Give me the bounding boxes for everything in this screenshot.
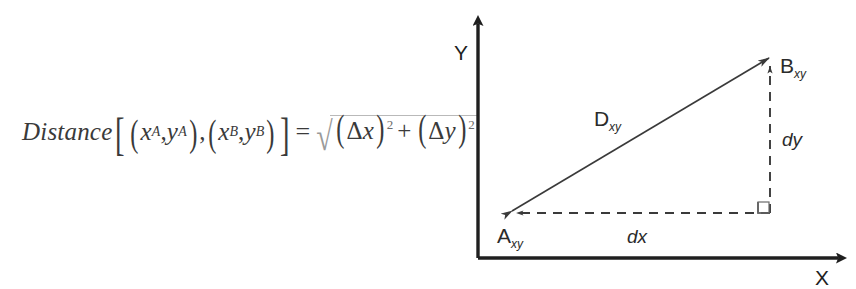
distance-diagram: Y X A xy B xy D xy dx dy bbox=[440, 0, 856, 289]
formula-comma-separator: , bbox=[199, 118, 205, 146]
right-angle-square bbox=[758, 202, 769, 213]
formula-point-a-y: y bbox=[167, 118, 178, 146]
right-angle-icon bbox=[758, 202, 770, 213]
y-axis-label: Y bbox=[454, 41, 468, 64]
radical-sign-icon: √ bbox=[316, 113, 333, 159]
formula-delta-x: Δ bbox=[347, 117, 363, 144]
formula-point-b-y: y bbox=[245, 118, 256, 146]
formula-term1-var: x bbox=[363, 117, 374, 144]
point-a-subscript: xy bbox=[510, 237, 524, 251]
formula-point-b-y-subscript: B bbox=[256, 124, 265, 140]
distance-label-subscript: xy bbox=[608, 120, 622, 134]
x-axis-label: X bbox=[815, 266, 829, 289]
dx-label: dx bbox=[627, 226, 649, 247]
point-b-subscript: xy bbox=[793, 67, 807, 81]
formula-point-a-y-subscript: A bbox=[178, 124, 187, 140]
point-b-label: B bbox=[780, 54, 794, 77]
dy-label: dy bbox=[782, 129, 804, 150]
formula-point-a-x-subscript: A bbox=[152, 124, 161, 140]
figure-canvas: Distance[(xA,yA),(xB,yB)]=√(Δx)2+(Δy)2 bbox=[0, 0, 856, 289]
formula-point-a-x: x bbox=[141, 118, 152, 146]
distance-label: D bbox=[594, 107, 609, 130]
distance-line bbox=[512, 58, 769, 211]
formula-function-name: Distance bbox=[22, 118, 112, 146]
formula-equals-sign: = bbox=[292, 117, 314, 147]
formula-plus-sign: + bbox=[393, 117, 415, 144]
point-a-label: A bbox=[497, 224, 511, 247]
formula-point-b-x-subscript: B bbox=[230, 124, 239, 140]
distance-formula: Distance[(xA,yA),(xB,yB)]=√(Δx)2+(Δy)2 bbox=[22, 103, 442, 161]
formula-point-b-x: x bbox=[218, 118, 229, 146]
